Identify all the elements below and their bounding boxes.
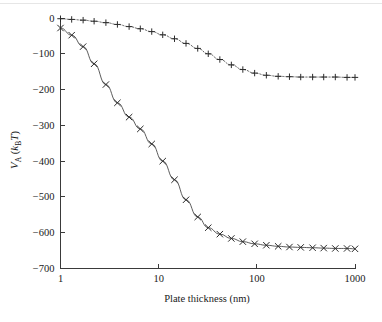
- data-point-marker: [68, 32, 74, 38]
- data-point-marker: [91, 61, 97, 67]
- y-tick-label: −300: [33, 120, 55, 131]
- data-point-marker: [309, 74, 315, 80]
- data-series: [57, 16, 358, 81]
- data-point-marker: [183, 197, 189, 203]
- series-path: [61, 19, 356, 78]
- data-point-marker: [352, 74, 358, 80]
- data-series-group: [57, 16, 358, 253]
- figure-container: 0−100−200−300−400−500−600−700 1101001000…: [0, 0, 382, 322]
- data-point-marker: [171, 36, 177, 42]
- y-tick-label: −400: [33, 156, 55, 167]
- data-point-marker: [251, 70, 257, 76]
- data-point-marker: [195, 45, 201, 51]
- data-point-marker: [137, 126, 143, 132]
- data-point-marker: [217, 56, 223, 62]
- data-point-marker: [103, 19, 109, 25]
- y-axis-title: VA (kBT): [8, 131, 23, 169]
- data-point-marker: [126, 114, 132, 120]
- data-point-marker: [57, 16, 63, 22]
- y-tick-label: −200: [33, 84, 55, 95]
- caption-ghost-text: [4, 311, 378, 319]
- y-axis-unit-close: ): [9, 131, 21, 135]
- x-axis-title: Plate thickness (nm): [164, 293, 250, 305]
- chart-canvas: 0−100−200−300−400−500−600−700 1101001000…: [0, 0, 382, 322]
- data-point-marker: [103, 81, 109, 87]
- y-tick-label: −700: [33, 263, 55, 274]
- data-point-marker: [80, 43, 86, 49]
- data-point-marker: [286, 73, 292, 79]
- x-tick-label: 10: [153, 273, 164, 284]
- data-point-marker: [275, 73, 281, 79]
- data-point-marker: [263, 72, 269, 78]
- data-point-marker: [195, 214, 201, 220]
- data-point-marker: [171, 177, 177, 183]
- data-point-marker: [321, 74, 327, 80]
- axes-group: [60, 18, 355, 269]
- data-point-marker: [137, 26, 143, 32]
- data-point-marker: [160, 158, 166, 164]
- data-point-marker: [114, 21, 120, 27]
- data-point-marker: [160, 32, 166, 38]
- y-axis-title-group: VA (kBT): [8, 131, 23, 169]
- data-point-marker: [205, 51, 211, 57]
- data-point-marker: [91, 18, 97, 24]
- data-series: [57, 25, 358, 252]
- y-tick-label: 0: [49, 13, 54, 24]
- data-point-marker: [332, 74, 338, 80]
- data-point-marker: [126, 23, 132, 29]
- data-point-marker: [298, 74, 304, 80]
- y-tick-label: −500: [33, 191, 55, 202]
- y-tick-label: −100: [33, 48, 55, 59]
- data-point-marker: [114, 100, 120, 106]
- x-axis-ticks: 1101001000: [58, 264, 366, 284]
- data-point-marker: [183, 40, 189, 46]
- x-tick-label: 100: [249, 273, 265, 284]
- data-point-marker: [344, 74, 350, 80]
- data-point-marker: [228, 62, 234, 68]
- data-point-marker: [149, 141, 155, 147]
- x-tick-label: 1: [58, 273, 63, 284]
- y-tick-label: −600: [33, 227, 55, 238]
- x-tick-label: 1000: [345, 273, 366, 284]
- series-path: [61, 28, 356, 249]
- y-axis-ticks: 0−100−200−300−400−500−600−700: [33, 13, 65, 275]
- data-point-marker: [240, 66, 246, 72]
- data-point-marker: [80, 17, 86, 23]
- data-point-marker: [68, 16, 74, 22]
- data-point-marker: [149, 28, 155, 34]
